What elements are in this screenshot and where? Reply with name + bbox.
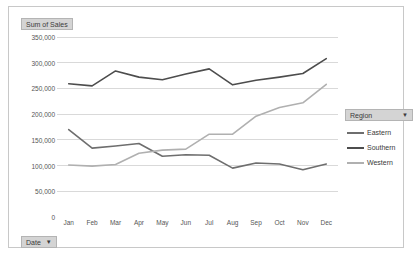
y-axis-labels: 350,000300,000250,000200,000150,000100,0… [15, 37, 55, 217]
chart-legend: EasternSouthernWestern [347, 125, 413, 170]
y-axis-tick-label: 100,000 [17, 162, 55, 169]
y-axis-tick-label: 200,000 [17, 111, 55, 118]
legend-swatch-icon [347, 147, 364, 149]
date-field-button-label: Date [26, 237, 41, 248]
x-axis-tick-label: Jan [63, 219, 73, 226]
legend-item-label: Eastern [367, 129, 391, 136]
value-field-button[interactable]: Sum of Sales [21, 18, 73, 30]
x-axis-tick-label: Oct [274, 219, 284, 226]
x-axis-tick-label: Feb [87, 219, 98, 226]
region-field-button[interactable]: Region ▼ [345, 109, 413, 121]
value-field-button-label: Sum of Sales [26, 19, 68, 30]
y-axis-tick-label: 250,000 [17, 85, 55, 92]
x-axis-tick-label: Dec [321, 219, 333, 226]
y-axis-tick-label: 150,000 [17, 136, 55, 143]
legend-item-label: Western [367, 159, 393, 166]
chevron-down-icon: ▼ [402, 112, 408, 118]
plot-svg [57, 37, 338, 217]
series-line-eastern [69, 130, 327, 170]
legend-item-western[interactable]: Western [347, 155, 413, 170]
legend-item-southern[interactable]: Southern [347, 140, 413, 155]
x-axis-tick-label: Sep [250, 219, 262, 226]
x-axis-tick-label: Jul [205, 219, 213, 226]
x-axis-labels: JanFebMarAprMayJunJulAugSepOctNovDec [57, 219, 338, 233]
gridlines [57, 37, 338, 217]
legend-swatch-icon [347, 162, 364, 164]
y-axis-tick-label: 300,000 [17, 59, 55, 66]
date-field-button[interactable]: Date ▼ [21, 236, 57, 248]
chevron-down-icon: ▼ [46, 239, 52, 245]
y-axis-tick-label: 50,000 [17, 188, 55, 195]
pivotchart-screenshot: Sum of Sales 350,000300,000250,000200,00… [0, 0, 415, 262]
region-field-button-label: Region [350, 110, 372, 121]
x-axis-tick-label: Apr [134, 219, 144, 226]
x-axis-tick-label: Jun [181, 219, 191, 226]
legend-item-label: Southern [367, 144, 395, 151]
chart-frame: Sum of Sales 350,000300,000250,000200,00… [8, 6, 404, 248]
y-axis-tick-label: 350,000 [17, 34, 55, 41]
plot-area [57, 37, 338, 217]
x-axis-tick-label: Mar [110, 219, 121, 226]
x-axis-tick-label: Aug [227, 219, 239, 226]
x-axis-tick-label: May [156, 219, 168, 226]
legend-swatch-icon [347, 132, 364, 134]
series-line-western [69, 84, 327, 166]
legend-item-eastern[interactable]: Eastern [347, 125, 413, 140]
x-axis-tick-label: Nov [297, 219, 309, 226]
y-axis-tick-label: 0 [17, 214, 55, 221]
